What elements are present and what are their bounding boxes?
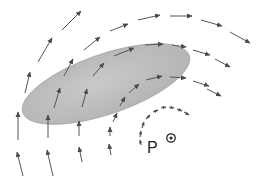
point-p-label: P	[147, 140, 158, 156]
field-diagram	[0, 0, 265, 187]
out-of-page-icon	[167, 134, 175, 142]
diagram-canvas: P	[0, 0, 265, 187]
elliptical-surface	[13, 27, 199, 141]
